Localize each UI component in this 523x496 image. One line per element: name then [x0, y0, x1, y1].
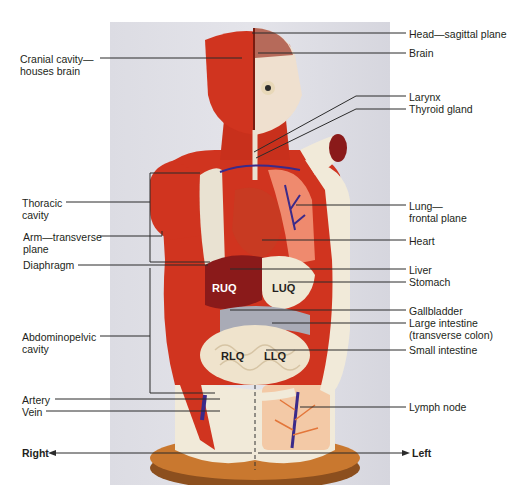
label-stomach: Stomach — [409, 276, 450, 288]
label-large-intestine: Large intestine (transverse colon) — [409, 317, 493, 341]
label-abdominopelvic-cavity: Abdominopelvic cavity — [22, 331, 96, 355]
label-vein: Vein — [22, 406, 42, 418]
label-arm-transverse-plane: Arm—transverse plane — [23, 231, 102, 255]
arrow-left-icon — [48, 450, 56, 456]
label-thyroid-gland: Thyroid gland — [409, 103, 473, 115]
label-artery: Artery — [22, 394, 50, 406]
label-direction-left: Left — [412, 447, 431, 459]
label-cranial-cavity: Cranial cavity— houses brain — [20, 53, 94, 77]
label-gallbladder: Gallbladder — [409, 305, 463, 317]
label-lung-frontal-plane: Lung— frontal plane — [409, 200, 467, 224]
arrow-right-icon — [402, 450, 410, 456]
label-diaphragm: Diaphragm — [23, 259, 74, 271]
label-head-sagittal-plane: Head—sagittal plane — [409, 28, 506, 40]
label-lymph-node: Lymph node — [409, 401, 466, 413]
label-liver: Liver — [409, 264, 432, 276]
label-heart: Heart — [409, 235, 435, 247]
label-small-intestine: Small intestine — [409, 344, 477, 356]
label-larynx: Larynx — [409, 91, 441, 103]
label-thoracic-cavity: Thoracic cavity — [22, 197, 62, 221]
label-brain: Brain — [409, 47, 434, 59]
label-direction-right: Right — [22, 447, 49, 459]
